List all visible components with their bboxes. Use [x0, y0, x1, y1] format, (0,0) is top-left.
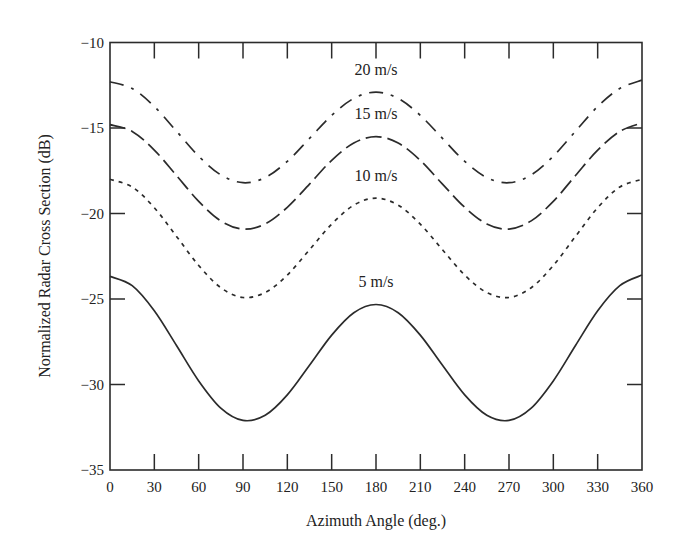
y-tick-label: −25 — [81, 291, 104, 307]
x-tick-label: 360 — [631, 479, 654, 495]
x-tick-label: 30 — [147, 479, 162, 495]
x-tick-label: 180 — [365, 479, 388, 495]
x-tick-label: 240 — [453, 479, 476, 495]
y-tick-label: −20 — [81, 206, 104, 222]
nrcs-vs-azimuth-chart: 0306090120150180210240270300330360−35−30… — [0, 0, 684, 555]
x-axis-title: Azimuth Angle (deg.) — [306, 512, 446, 530]
series-label: 20 m/s — [354, 61, 397, 78]
y-tick-label: −10 — [81, 35, 104, 51]
series-line-5-m-s — [110, 275, 642, 421]
x-tick-label: 60 — [191, 479, 206, 495]
y-tick-label: −30 — [81, 377, 104, 393]
series-label: 15 m/s — [354, 105, 397, 122]
x-tick-label: 330 — [586, 479, 609, 495]
x-tick-label: 90 — [236, 479, 251, 495]
x-tick-label: 150 — [320, 479, 343, 495]
x-tick-label: 300 — [542, 479, 565, 495]
series-label: 5 m/s — [358, 273, 393, 290]
axis-ticks: 0306090120150180210240270300330360−35−30… — [81, 35, 654, 496]
x-tick-label: 0 — [106, 479, 114, 495]
y-axis-title: Normalized Radar Cross Section (dB) — [36, 134, 54, 378]
series-layer — [110, 80, 642, 421]
x-tick-label: 210 — [409, 479, 432, 495]
series-label: 10 m/s — [354, 167, 397, 184]
x-tick-label: 120 — [276, 479, 299, 495]
y-tick-label: −15 — [81, 120, 104, 136]
y-tick-label: −35 — [81, 462, 104, 478]
x-tick-label: 270 — [498, 479, 521, 495]
